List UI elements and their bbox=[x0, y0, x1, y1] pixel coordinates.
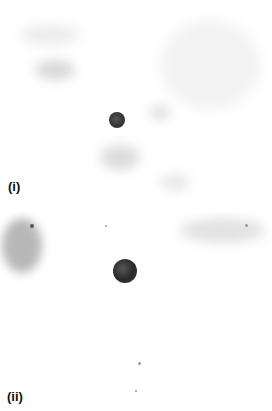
background-stain bbox=[150, 105, 170, 120]
speckled-stain bbox=[180, 218, 265, 243]
speckled-stain bbox=[2, 218, 42, 273]
background-stain bbox=[100, 145, 140, 170]
speck bbox=[138, 362, 141, 365]
speck bbox=[135, 390, 137, 392]
dark-particle bbox=[109, 112, 125, 128]
panel-label: (i) bbox=[8, 179, 20, 194]
panel-label: (ii) bbox=[7, 389, 23, 404]
micrograph-panel-ii: (ii) bbox=[0, 212, 272, 411]
speck bbox=[245, 224, 248, 227]
speck bbox=[30, 224, 34, 228]
speck bbox=[105, 225, 107, 227]
background-stain bbox=[160, 20, 260, 110]
background-stain bbox=[20, 25, 80, 45]
background-stain bbox=[35, 60, 75, 80]
background-stain bbox=[160, 175, 190, 190]
micrograph-panel-i: (i) bbox=[0, 0, 272, 198]
dark-particle bbox=[113, 259, 137, 283]
